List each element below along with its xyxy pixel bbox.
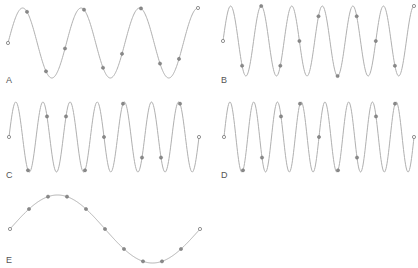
sample-point [122, 247, 125, 250]
sample-point [412, 135, 415, 138]
sample-points [222, 102, 415, 172]
panel-label: D [221, 170, 228, 180]
sample-point [46, 195, 49, 198]
sample-point [63, 47, 66, 50]
sample-point [27, 207, 30, 210]
sample-point [179, 247, 182, 250]
sample-point [317, 135, 320, 138]
sample-point [298, 102, 301, 105]
sample-point [102, 135, 105, 138]
sample-points [221, 4, 415, 77]
panel-label: B [221, 75, 227, 85]
sample-point [374, 39, 377, 42]
sample-point [158, 62, 161, 65]
sample-point [298, 39, 301, 42]
panel-b: B [221, 4, 416, 85]
sample-point [160, 260, 163, 263]
sample-point [198, 227, 201, 230]
sample-point [82, 8, 85, 11]
sample-point [279, 115, 282, 118]
sample-point [65, 195, 68, 198]
panel-label: A [6, 75, 12, 85]
sample-point [178, 102, 181, 105]
sample-point [121, 102, 124, 105]
sample-point [140, 156, 143, 159]
panel-a: A [6, 6, 200, 85]
sample-point [139, 7, 142, 10]
sample-point [7, 135, 10, 138]
sample-points [8, 195, 201, 263]
panel-label: C [6, 170, 13, 180]
panel-label: E [6, 255, 12, 265]
sample-point [374, 115, 377, 118]
sample-point [241, 169, 244, 172]
sample-point [412, 4, 415, 7]
sample-point [221, 39, 224, 42]
sample-point [336, 74, 339, 77]
sample-point [317, 15, 320, 18]
sample-point [279, 64, 282, 67]
sample-point [260, 4, 263, 7]
sample-point [260, 156, 263, 159]
sample-point [8, 227, 11, 230]
sample-point [83, 169, 86, 172]
sample-point [103, 227, 106, 230]
sample-point [101, 66, 104, 69]
sample-point [177, 57, 180, 60]
panel-c: C [6, 102, 201, 180]
sample-point [393, 64, 396, 67]
sample-point [159, 156, 162, 159]
sample-point [26, 169, 29, 172]
sample-point [44, 70, 47, 73]
panel-e: E [6, 195, 202, 265]
sample-point [45, 115, 48, 118]
panel-d: D [221, 102, 416, 180]
sample-point [84, 207, 87, 210]
sample-point [25, 10, 28, 13]
sample-point [336, 169, 339, 172]
sample-point [355, 156, 358, 159]
sample-points [6, 6, 199, 73]
sample-point [64, 115, 67, 118]
sample-point [196, 6, 199, 9]
sample-point [197, 135, 200, 138]
sample-point [6, 41, 9, 44]
sample-point [120, 52, 123, 55]
sampling-diagram: A B C D E [0, 0, 418, 268]
sample-point [393, 102, 396, 105]
sample-point [141, 260, 144, 263]
sample-point [355, 15, 358, 18]
sample-point [241, 64, 244, 67]
sample-point [222, 135, 225, 138]
